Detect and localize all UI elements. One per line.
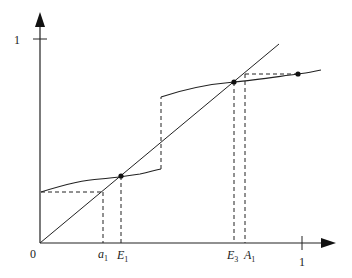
E1-label: E1 bbox=[116, 248, 128, 264]
fixed-point-diagram: 1 0 1 a1 E1 E3 A1 bbox=[0, 0, 352, 278]
axes bbox=[33, 12, 336, 250]
y-axis-arrow-icon bbox=[35, 12, 45, 27]
y-tick-label: 1 bbox=[14, 33, 20, 47]
x-tick-label: 1 bbox=[299, 255, 305, 269]
diagonal-line bbox=[40, 44, 279, 243]
origin-label: 0 bbox=[30, 247, 36, 261]
E1-fixed-point bbox=[118, 173, 123, 178]
function-lower-branch bbox=[41, 169, 161, 192]
construction-lines bbox=[41, 74, 298, 243]
A1-image-point bbox=[295, 71, 300, 76]
x-axis-arrow-icon bbox=[321, 238, 336, 248]
E3-label: E3 bbox=[226, 248, 238, 264]
E3-fixed-point bbox=[231, 79, 236, 84]
A1-label: A1 bbox=[243, 248, 255, 264]
a1-label: a1 bbox=[98, 247, 108, 263]
